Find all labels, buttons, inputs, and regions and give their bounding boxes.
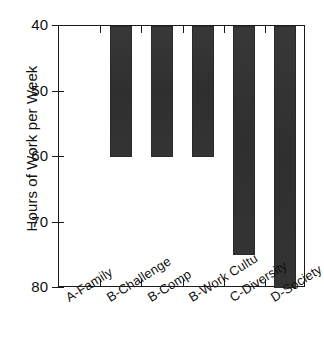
y-axis-tick-label: 80 [6, 279, 48, 294]
bar [192, 26, 214, 157]
x-axis-tick [224, 26, 225, 33]
bar [110, 26, 132, 157]
bar [274, 26, 296, 288]
y-axis-tick-label: 70 [6, 214, 48, 229]
plot-inner [59, 26, 304, 286]
bar [151, 26, 173, 157]
y-axis-tick-inner [58, 156, 64, 157]
y-axis-tick-inner [58, 91, 64, 92]
y-axis-tick-label: 40 [6, 17, 48, 32]
bar-chart: Hours of Work per Week 4050607080 A-Fami… [0, 0, 324, 360]
y-axis-tick-inner [58, 222, 64, 223]
plot-area [58, 25, 305, 287]
bar [233, 26, 255, 255]
y-axis-tick-label: 60 [6, 148, 48, 163]
y-axis-tick-inner [58, 25, 64, 26]
x-axis-tick [141, 26, 142, 33]
x-axis-tick [100, 26, 101, 33]
y-axis-tick-label: 50 [6, 83, 48, 98]
x-axis-tick [265, 26, 266, 33]
x-axis-tick [183, 26, 184, 33]
y-axis-tick-inner [58, 287, 64, 288]
